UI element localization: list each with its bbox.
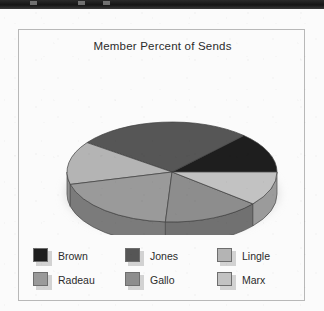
legend-item-jones[interactable]: Jones (125, 248, 217, 264)
titlebar-marker-2 (78, 1, 85, 5)
legend-label-gallo: Gallo (150, 274, 175, 286)
legend-item-radeau[interactable]: Radeau (33, 272, 125, 288)
legend-item-gallo[interactable]: Gallo (125, 272, 217, 288)
legend-label-lingle: Lingle (242, 250, 270, 262)
legend-swatch-radeau (33, 272, 50, 288)
legend-swatch-fill (125, 248, 140, 262)
legend-swatch-fill (217, 248, 232, 262)
legend-swatch-fill (33, 248, 48, 262)
legend-item-brown[interactable]: Brown (33, 248, 125, 264)
chart-frame[interactable]: Member Percent of Sends Brown: 13%Jones:… (18, 29, 305, 301)
pie-chart[interactable]: Brown: 13%Jones: 27%Lingle: 14%Radeau: 2… (19, 60, 306, 235)
legend-swatch-lingle (217, 248, 234, 264)
document-page: Member Percent of Sends Brown: 13%Jones:… (0, 9, 324, 311)
chart-title: Member Percent of Sends (19, 40, 306, 52)
legend-swatch-gallo (125, 272, 142, 288)
pie-chart-svg: Brown: 13%Jones: 27%Lingle: 14%Radeau: 2… (19, 60, 306, 235)
legend-swatch-marx (217, 272, 234, 288)
window-titlebar (0, 0, 324, 9)
chart-legend: Brown Radeau Jones (33, 244, 295, 292)
screenshot-root: Member Percent of Sends Brown: 13%Jones:… (0, 0, 324, 311)
titlebar-marker-1 (30, 1, 37, 5)
legend-label-brown: Brown (58, 250, 88, 262)
legend-item-marx[interactable]: Marx (217, 272, 295, 288)
pie-slices[interactable]: Brown: 13%Jones: 27%Lingle: 14%Radeau: 2… (67, 122, 277, 222)
legend-swatch-fill (217, 272, 232, 286)
legend-item-lingle[interactable]: Lingle (217, 248, 295, 264)
legend-swatch-fill (33, 272, 48, 286)
legend-swatch-brown (33, 248, 50, 264)
legend-label-jones: Jones (150, 250, 178, 262)
legend-swatch-fill (125, 272, 140, 286)
titlebar-marker-3 (103, 1, 110, 5)
legend-swatch-jones (125, 248, 142, 264)
legend-label-radeau: Radeau (58, 274, 95, 286)
legend-label-marx: Marx (242, 274, 265, 286)
